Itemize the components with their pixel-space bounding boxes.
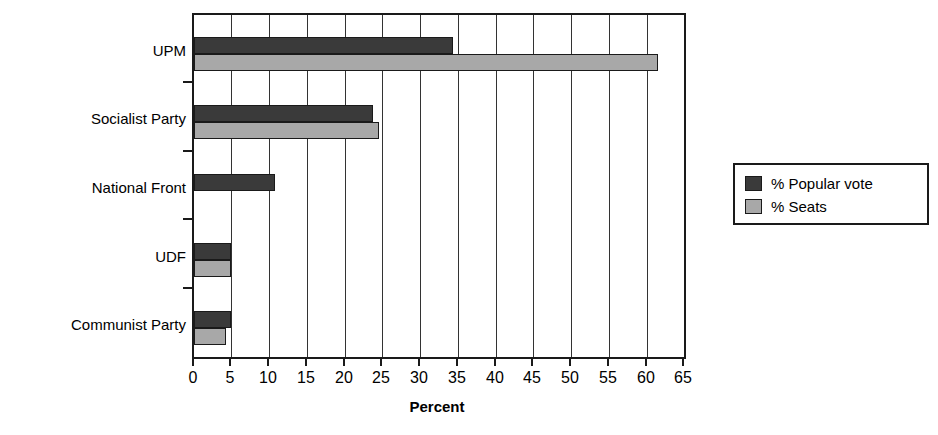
category-axis: UPM Socialist Party National Front UDF C… (0, 13, 186, 355)
legend-label: % Popular vote (771, 175, 873, 192)
bar-upm-seats (194, 54, 658, 71)
x-axis-tick (645, 357, 647, 366)
y-axis-tick (183, 81, 192, 83)
category-label: UDF (6, 249, 186, 265)
category-label: Communist Party (6, 317, 186, 333)
bar-national-front-popular-vote (194, 174, 275, 191)
bar-communist-party-seats (194, 328, 226, 345)
x-axis-tick (418, 357, 420, 366)
bar-chart: UPM Socialist Party National Front UDF C… (0, 0, 938, 435)
category-label: Socialist Party (6, 111, 186, 127)
x-axis-tick (607, 357, 609, 366)
bar-upm-popular-vote (194, 37, 453, 54)
x-axis-tick (456, 357, 458, 366)
category-label: National Front (6, 180, 186, 196)
x-axis-title: Percent (192, 398, 682, 415)
x-axis-tick (494, 357, 496, 366)
x-axis-tick-label: 5 (210, 368, 250, 387)
x-axis-tick-label: 20 (324, 368, 364, 387)
legend-label: % Seats (771, 198, 827, 215)
x-axis-tick (682, 357, 684, 366)
y-axis-tick (183, 150, 192, 152)
legend-swatch-icon (745, 199, 762, 214)
x-axis-tick-label: 30 (399, 368, 439, 387)
legend-swatch-icon (745, 176, 762, 191)
x-axis-tick (192, 357, 194, 366)
bar-communist-party-popular-vote (194, 311, 231, 328)
x-axis-tick-label: 55 (588, 368, 628, 387)
x-axis-tick (305, 357, 307, 366)
x-axis-tick-label: 25 (361, 368, 401, 387)
x-axis-tick-label: 0 (173, 368, 213, 387)
plot-area (192, 13, 686, 359)
x-axis-tick-label: 60 (626, 368, 666, 387)
x-axis-tick-label: 35 (437, 368, 477, 387)
bar-udf-seats (194, 260, 231, 277)
x-axis-tick-label: 15 (286, 368, 326, 387)
bar-socialist-party-popular-vote (194, 105, 373, 122)
x-axis-tick-label: 50 (550, 368, 590, 387)
legend-item-popular-vote: % Popular vote (745, 172, 927, 195)
bar-udf-popular-vote (194, 243, 231, 260)
x-axis-tick (267, 357, 269, 366)
bar-socialist-party-seats (194, 122, 379, 139)
x-axis-tick-label: 40 (475, 368, 515, 387)
x-axis-tick (569, 357, 571, 366)
x-axis-tick-label: 10 (248, 368, 288, 387)
x-axis-tick-label: 65 (663, 368, 703, 387)
chart-legend: % Popular vote % Seats (733, 163, 929, 225)
x-axis-tick (229, 357, 231, 366)
x-axis-tick (343, 357, 345, 366)
x-axis-tick (380, 357, 382, 366)
x-axis-tick-label: 45 (512, 368, 552, 387)
y-axis-tick (183, 287, 192, 289)
legend-item-seats: % Seats (745, 195, 927, 218)
y-axis-tick (183, 218, 192, 220)
x-axis-tick (531, 357, 533, 366)
category-label: UPM (6, 43, 186, 59)
